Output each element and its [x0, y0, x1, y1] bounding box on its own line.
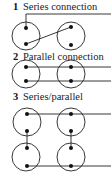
- section-label-series: 1 Series connection: [13, 1, 97, 13]
- terminal-dot: [69, 65, 73, 69]
- section-title: Series connection: [23, 1, 97, 12]
- terminal-dot: [25, 164, 29, 168]
- terminal-dot: [69, 25, 73, 29]
- terminal-dot: [25, 112, 29, 116]
- section-label-series-parallel: 3 Series/parallel: [13, 91, 83, 103]
- speaker-1-circle: [12, 60, 40, 88]
- terminal-dot: [69, 146, 73, 150]
- terminal-dot: [25, 129, 29, 133]
- terminal-dot: [25, 146, 29, 150]
- parallel-connection-diagram: [12, 60, 111, 88]
- speaker-2-circle: [57, 60, 85, 88]
- series-link-wire: [26, 27, 71, 44]
- series-parallel-diagram: [12, 108, 111, 171]
- section-label-parallel: 2 Parallel connection: [13, 51, 104, 63]
- terminal-dot: [24, 65, 28, 69]
- section-number: 2: [13, 51, 18, 62]
- section-title: Series/parallel: [23, 91, 83, 102]
- terminal-dot: [69, 43, 73, 47]
- terminal-dot: [24, 42, 28, 46]
- lead-wire-positive: [26, 14, 111, 28]
- section-number: 3: [13, 91, 18, 102]
- terminal-dot: [69, 112, 73, 116]
- terminal-dot: [69, 164, 73, 168]
- terminal-dot: [69, 129, 73, 133]
- section-number: 1: [13, 1, 18, 12]
- terminal-dot: [69, 79, 73, 83]
- terminal-dot: [24, 26, 28, 30]
- section-title: Parallel connection: [23, 51, 104, 62]
- terminal-dot: [24, 79, 28, 83]
